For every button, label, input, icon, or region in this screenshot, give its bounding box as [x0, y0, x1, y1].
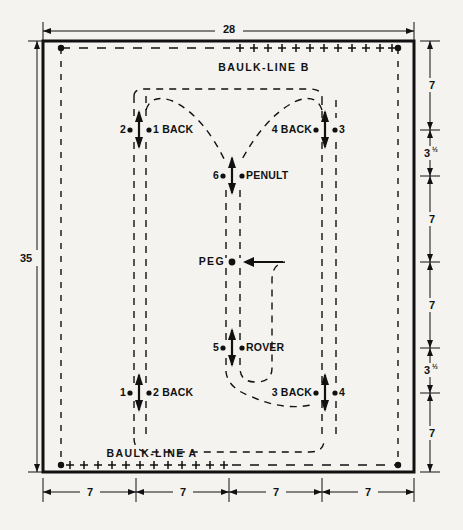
baulk-line-a: BAULK-LINE A [58, 447, 401, 469]
bottom-dimension-chain: 7 7 7 7 [43, 478, 414, 502]
left-dimension: 35 [14, 41, 46, 472]
right-dim-seg-5-fraction: ½ [432, 363, 438, 370]
court-boundary [43, 41, 414, 472]
bottom-dim-seg-2: 7 [180, 486, 186, 498]
right-dim-seg-5: 3 [424, 364, 430, 376]
baulk-line-b-label: BAULK-LINE B [218, 61, 309, 73]
hoop-1back-left-label: 2 [120, 123, 126, 135]
corner-dot-top-left [58, 45, 64, 51]
hoop-rover: 5 ROVER [213, 328, 285, 367]
right-dim-seg-6: 7 [429, 427, 435, 439]
corner-dot-bottom-right [395, 462, 401, 468]
bottom-dim-seg-1: 7 [87, 486, 93, 498]
hoop-2back-right-label: 2 BACK [153, 386, 194, 398]
baulk-line-b: BAULK-LINE B [58, 44, 401, 73]
right-dim-seg-1: 7 [429, 79, 435, 91]
top-dimension: 28 [43, 22, 414, 42]
top-dimension-label: 28 [223, 23, 235, 35]
hoop-4back: 4 BACK 3 [272, 110, 345, 149]
corner-dot-bottom-left [58, 462, 64, 468]
hoop-penult-left-label: 6 [213, 169, 219, 181]
hoop-2back-left-label: 1 [120, 386, 126, 398]
corner-dot-top-right [395, 45, 401, 51]
hoop-3back-right-label: 4 [339, 386, 345, 398]
bottom-dim-seg-3: 7 [273, 486, 279, 498]
peg-marker: PEG [199, 255, 283, 267]
left-dimension-label: 35 [20, 252, 32, 264]
baulk-line-a-label: BAULK-LINE A [106, 447, 197, 459]
hoop-rover-right-label: ROVER [246, 341, 285, 353]
right-dim-seg-2-fraction: ½ [432, 146, 438, 153]
right-dimension-chain: 7 3 ½ 7 7 3 ½ 7 [418, 41, 444, 472]
right-dim-seg-4: 7 [429, 299, 435, 311]
hoop-1back: 2 1 BACK [120, 110, 194, 149]
right-dim-seg-3: 7 [429, 213, 435, 225]
yard-line [61, 48, 398, 465]
right-dim-seg-2: 3 [424, 147, 430, 159]
hoop-3back-left-label: 3 BACK [272, 386, 313, 398]
hoop-rover-left-label: 5 [213, 341, 219, 353]
hoop-penult-right-label: PENULT [246, 169, 289, 181]
hoop-1back-right-label: 1 BACK [153, 123, 194, 135]
hoop-2back: 1 2 BACK [120, 373, 194, 412]
peg-dot [229, 259, 236, 266]
diagram-canvas: 28 35 [0, 0, 463, 530]
baulk-line-b-plus-marks [232, 44, 398, 52]
peg-label: PEG [199, 255, 225, 267]
hoop-penult: 6 PENULT [213, 156, 289, 195]
hoop-4back-right-label: 3 [339, 123, 345, 135]
baulk-line-a-plus-marks [66, 461, 228, 469]
hoop-4back-left-label: 4 BACK [272, 123, 313, 135]
bottom-dim-seg-4: 7 [365, 486, 371, 498]
croquet-court-diagram: 28 35 [0, 0, 463, 530]
